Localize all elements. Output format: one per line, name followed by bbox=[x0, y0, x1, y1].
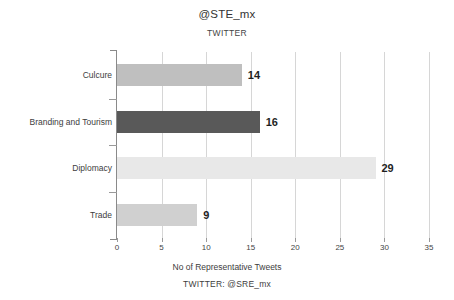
bar[interactable] bbox=[117, 157, 376, 179]
x-axis: 05101520253035 bbox=[117, 238, 429, 260]
x-axis-tick bbox=[384, 238, 385, 242]
x-axis-tick-label: 0 bbox=[115, 243, 119, 252]
x-axis-tick bbox=[251, 238, 252, 242]
x-axis-tick-label: 5 bbox=[159, 243, 163, 252]
x-axis-tick-label: 10 bbox=[202, 243, 211, 252]
y-axis-tick bbox=[109, 99, 117, 100]
bar-value-label: 16 bbox=[266, 111, 278, 133]
x-axis-tick-label: 20 bbox=[291, 243, 300, 252]
bar-value-label: 9 bbox=[203, 204, 209, 226]
gridline bbox=[429, 52, 430, 238]
y-axis-cap bbox=[110, 50, 117, 51]
gridline bbox=[295, 52, 296, 238]
y-axis-cap bbox=[110, 239, 117, 240]
gridline bbox=[340, 52, 341, 238]
y-axis-tick bbox=[109, 145, 117, 146]
y-axis-tick-label: Diplomacy bbox=[2, 157, 112, 179]
bar-value-label: 14 bbox=[248, 64, 260, 86]
chart-title: @STE_mx bbox=[0, 8, 454, 20]
x-axis-tick bbox=[117, 238, 118, 242]
y-axis-tick-label: Branding and Tourism bbox=[2, 111, 112, 133]
chart-container: @STE_mx TWITTER CulcureBranding and Tour… bbox=[0, 0, 454, 300]
chart-subtitle: TWITTER bbox=[0, 28, 454, 38]
bar[interactable] bbox=[117, 64, 242, 86]
x-axis-tick-label: 15 bbox=[246, 243, 255, 252]
x-axis-tick bbox=[162, 238, 163, 242]
y-axis-category-labels: CulcureBranding and TourismDiplomacyTrad… bbox=[0, 52, 112, 238]
x-axis-tick bbox=[340, 238, 341, 242]
y-axis-tick-label: Culcure bbox=[2, 64, 112, 86]
bar[interactable] bbox=[117, 111, 260, 133]
bar-value-label: 29 bbox=[382, 157, 394, 179]
plot-area: 1416299 bbox=[117, 52, 429, 238]
x-axis-tick bbox=[206, 238, 207, 242]
x-axis-tick bbox=[429, 238, 430, 242]
x-axis-tick-label: 35 bbox=[425, 243, 434, 252]
x-axis-tick-label: 25 bbox=[335, 243, 344, 252]
chart-footer: TWITTER: @SRE_mx bbox=[0, 279, 454, 289]
x-axis-tick-label: 30 bbox=[380, 243, 389, 252]
y-axis-tick-label: Trade bbox=[2, 204, 112, 226]
y-axis-tick bbox=[109, 192, 117, 193]
bar[interactable] bbox=[117, 204, 197, 226]
x-axis-title: No of Representative Tweets bbox=[0, 262, 454, 272]
x-axis-tick bbox=[295, 238, 296, 242]
gridline bbox=[384, 52, 385, 238]
